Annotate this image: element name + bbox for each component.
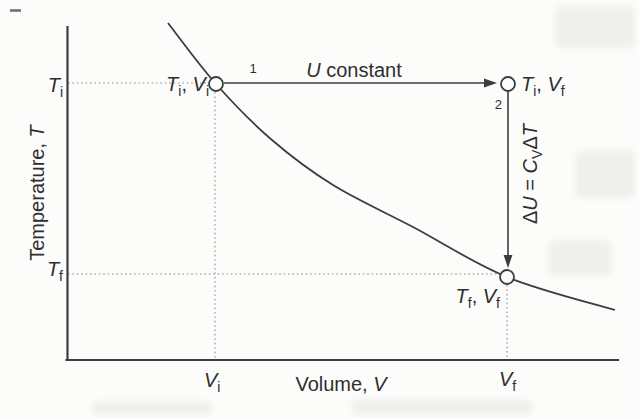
label-u-constant: U constant	[306, 59, 402, 81]
state-point-const-u	[501, 77, 515, 91]
step-2-number: 2	[495, 97, 502, 112]
figure-svg: Temperature, T Volume, V Ti Tf Vi Vf Ti,…	[0, 0, 639, 419]
tick-label-vf: Vf	[499, 368, 516, 394]
figure-canvas: Temperature, T Volume, V Ti Tf Vi Vf Ti,…	[0, 0, 639, 419]
x-axis-title: Volume, V	[295, 373, 388, 395]
label-point-const-u: Ti, Vf	[521, 73, 565, 99]
label-delta-u: ΔU = CVΔT	[519, 122, 545, 224]
y-axis-title: Temperature, T	[26, 123, 48, 260]
state-point-initial	[209, 77, 223, 91]
tick-label-tf: Tf	[47, 258, 63, 284]
label-point-final: Tf, Vf	[456, 285, 501, 311]
tick-label-vi: Vi	[204, 369, 220, 395]
path1-arrowhead	[484, 79, 497, 88]
step-1-number: 1	[249, 61, 256, 76]
state-point-final	[500, 270, 514, 284]
tick-label-ti: Ti	[48, 74, 63, 100]
path2-arrowhead	[504, 255, 513, 268]
label-point-initial: Ti, Vi	[166, 73, 209, 99]
